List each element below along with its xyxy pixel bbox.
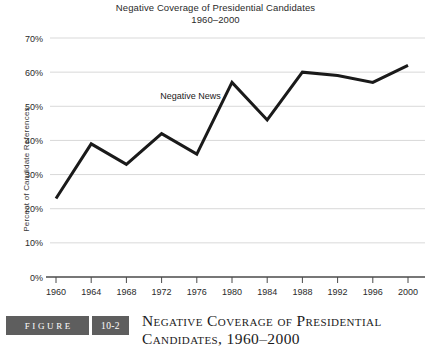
- y-axis-title: Percent of Candidate References: [22, 75, 31, 265]
- caption-title-line-1: Negative Coverage of Presidential: [142, 312, 382, 330]
- x-tick-label: 2000: [398, 287, 418, 297]
- x-tick-label: 1968: [116, 287, 136, 297]
- x-tick-label: 1964: [81, 287, 101, 297]
- x-tick-label: 1996: [363, 287, 383, 297]
- caption-title-line-2: Candidates, 1960–2000: [142, 330, 382, 348]
- figure-caption: FIGURE 10-2 Negative Coverage of Preside…: [0, 316, 431, 363]
- line-chart-svg: 0%10%20%30%40%50%60%70% 1960196419681972…: [0, 0, 431, 310]
- x-axis-tick-labels: 1960196419681972197619801984198819921996…: [46, 287, 418, 297]
- caption-figure-badge: FIGURE: [6, 316, 89, 335]
- annotation-text: Negative News: [160, 91, 221, 101]
- plot-area: 0%10%20%30%40%50%60%70% 1960196419681972…: [0, 0, 431, 310]
- x-tick-label: 1984: [257, 287, 277, 297]
- x-tick-label: 1988: [292, 287, 312, 297]
- data-series-negative-news: [56, 65, 408, 198]
- x-axis-ticks: [56, 277, 408, 283]
- caption-title: Negative Coverage of Presidential Candid…: [142, 312, 382, 347]
- y-tick-label: 0%: [30, 273, 43, 283]
- gridlines: [50, 38, 425, 243]
- series-label-negative-news: Negative News: [160, 91, 221, 101]
- x-tick-label: 1976: [187, 287, 207, 297]
- y-tick-label: 70%: [25, 34, 43, 44]
- x-tick-label: 1980: [222, 287, 242, 297]
- x-tick-label: 1972: [152, 287, 172, 297]
- series-polyline: [56, 65, 408, 198]
- caption-number-badge: 10-2: [92, 316, 129, 335]
- figure-container: Negative Coverage of Presidential Candid…: [0, 0, 431, 363]
- x-tick-label: 1992: [328, 287, 348, 297]
- x-tick-label: 1960: [46, 287, 66, 297]
